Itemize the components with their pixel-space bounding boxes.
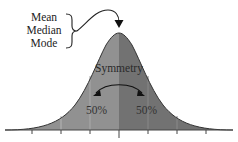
brace-icon <box>66 14 77 48</box>
axis-ticks <box>32 130 206 138</box>
median-label: Median <box>22 24 66 37</box>
pointer-arrowhead-icon <box>115 20 124 28</box>
left-percent-label: 50% <box>86 104 107 116</box>
mean-label: Mean <box>22 11 66 24</box>
right-percent-label: 50% <box>136 104 157 116</box>
pointer-arrow-line <box>77 10 119 31</box>
symmetry-label: Symmetry <box>95 62 143 74</box>
mode-label: Mode <box>22 37 66 50</box>
central-tendency-labels: Mean Median Mode <box>22 11 66 50</box>
